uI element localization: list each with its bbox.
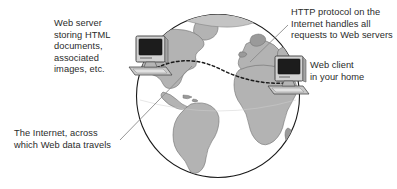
diagram-canvas: Web server storing HTML documents, assoc…	[0, 0, 397, 189]
server-monitor-stand	[144, 62, 157, 67]
web-server-computer	[129, 36, 172, 75]
client-monitor-stand	[282, 81, 295, 86]
client-drive-slot	[279, 76, 290, 78]
label-http-protocol: HTTP protocol on the Internet handles al…	[291, 7, 393, 42]
server-keyboard-face	[133, 69, 167, 73]
server-screen	[139, 39, 162, 55]
label-web-server: Web server storing HTML documents, assoc…	[54, 18, 110, 76]
client-screen	[278, 59, 300, 74]
server-side-shading	[165, 37, 168, 63]
label-web-client: Web client in your home	[310, 60, 364, 83]
server-drive-slot	[140, 57, 152, 59]
client-keyboard-face	[272, 88, 304, 92]
client-side-shading	[303, 57, 306, 82]
label-internet: The Internet, across which Web data trav…	[14, 128, 111, 151]
